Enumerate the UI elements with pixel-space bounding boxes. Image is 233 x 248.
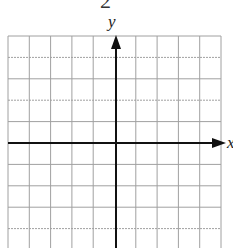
x-axis-arrow-icon xyxy=(212,138,226,148)
axes xyxy=(8,44,218,248)
coordinate-grid xyxy=(0,0,233,248)
y-axis-arrow-icon xyxy=(111,35,121,49)
